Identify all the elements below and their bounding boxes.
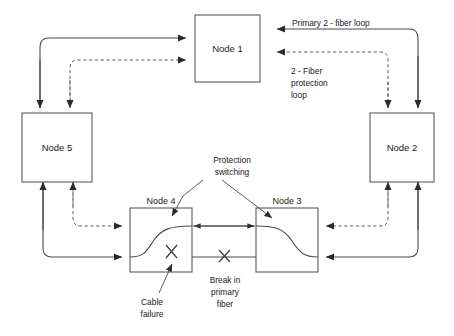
annotation-break-line-2: primary	[211, 287, 240, 297]
link-node5-to-node4-protection	[73, 182, 122, 226]
node-3[interactable]: Node 3	[256, 196, 318, 272]
link-node5-to-node1-primary	[40, 38, 186, 108]
link-node5-to-node1-protection	[70, 60, 186, 108]
node-4[interactable]: Node 4	[130, 196, 192, 272]
network-diagram: Node 1 Node 5 Node 2 Node 4 Node 3	[0, 0, 454, 336]
link-node2-to-node3-primary	[326, 182, 418, 257]
annotation-cable-failure-line-1: Cable	[141, 297, 163, 307]
link-node2-to-node3-protection	[326, 182, 388, 226]
diagram-canvas: Node 1 Node 5 Node 2 Node 4 Node 3	[0, 0, 454, 336]
node-1[interactable]: Node 1	[195, 15, 260, 82]
node-3-label: Node 3	[272, 196, 301, 206]
annotation-protection-loop-line-2: protection	[291, 78, 328, 88]
link-node5-to-node4-primary	[43, 182, 122, 257]
annotation-protection-loop-line-3: loop	[291, 90, 307, 100]
annotation-break-line-3: fiber	[217, 299, 234, 309]
node-2[interactable]: Node 2	[370, 113, 434, 182]
annotation-protection-switching-line-2: switching	[215, 167, 250, 177]
node-4-label: Node 4	[146, 196, 175, 206]
annotation-protection-switching-line-1: Protection	[213, 155, 251, 165]
break-primary-x-icon	[219, 250, 230, 262]
node-5-label: Node 5	[42, 142, 73, 153]
node-1-label: Node 1	[212, 43, 243, 54]
annotation-cable-failure-line-2: failure	[141, 309, 164, 319]
annotation-primary-loop: Primary 2 - fiber loop	[292, 18, 370, 28]
annotation-protection-loop-line-1: 2 - Fiber	[291, 66, 322, 76]
node-2-label: Node 2	[387, 142, 418, 153]
node-5[interactable]: Node 5	[22, 113, 92, 182]
leader-protection-switching-node3	[222, 180, 272, 218]
annotation-break-line-1: Break in	[210, 275, 241, 285]
